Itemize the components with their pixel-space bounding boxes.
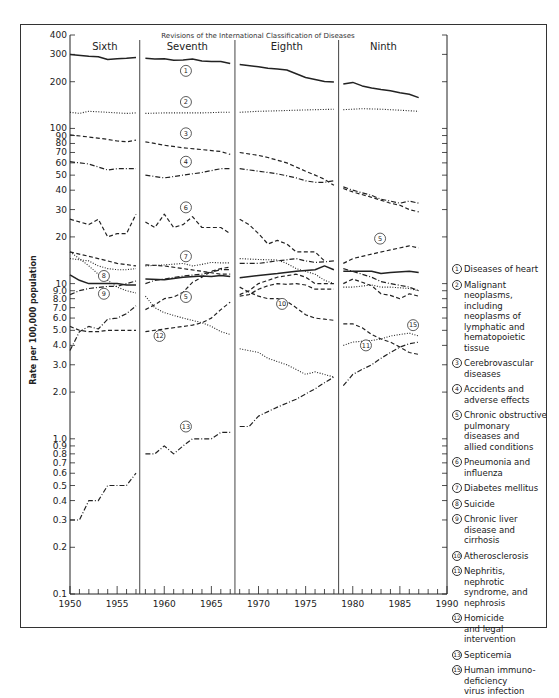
legend-label: Suicide bbox=[464, 499, 558, 510]
series-marker: 6 bbox=[180, 202, 191, 213]
series-3 bbox=[70, 135, 419, 212]
y-tick-label: 0.5 bbox=[53, 481, 67, 491]
series-marker: 11 bbox=[360, 340, 371, 351]
y-tick-label: 0.3 bbox=[53, 515, 67, 525]
y-tick-label: 70 bbox=[56, 147, 68, 157]
svg-text:7: 7 bbox=[184, 253, 188, 261]
y-tick-label: 0.4 bbox=[53, 496, 68, 506]
revision-label: Sixth bbox=[92, 41, 117, 52]
series-marker: 13 bbox=[180, 421, 191, 432]
x-tick-label: 1975 bbox=[294, 599, 317, 609]
legend-item: 1Diseases of heart bbox=[452, 264, 558, 275]
legend-item: 2Malignant neoplasms, including neoplasm… bbox=[452, 280, 558, 354]
series-lines bbox=[70, 54, 419, 520]
legend-item: 4Accidents and adverse effects bbox=[452, 384, 558, 405]
legend-item: 7Diabetes mellitus bbox=[452, 483, 558, 494]
series-marker: 1 bbox=[180, 65, 191, 76]
legend-label: Diabetes mellitus bbox=[464, 483, 558, 494]
y-tick-label: 0.2 bbox=[53, 542, 67, 552]
legend-item: 12Homicide and legal intervention bbox=[452, 613, 558, 645]
y-tick-label: 0.6 bbox=[53, 468, 68, 478]
svg-text:5: 5 bbox=[184, 293, 188, 301]
series-marker: 5 bbox=[180, 291, 191, 302]
legend-label: Chronic obstructive pulmonary diseases a… bbox=[464, 410, 558, 452]
series-marker: 9 bbox=[98, 288, 109, 299]
legend-item: 8Suicide bbox=[452, 499, 558, 510]
x-tick-label: 1985 bbox=[388, 599, 411, 609]
y-tick-label: 300 bbox=[50, 49, 67, 59]
series-marker: 5 bbox=[375, 233, 386, 244]
series-12 bbox=[70, 279, 419, 332]
y-tick-label: 4.0 bbox=[53, 340, 68, 350]
legend-number-badge: 11 bbox=[452, 566, 462, 576]
y-tick-label: 40 bbox=[56, 185, 68, 195]
revision-dividers: SixthSeventhEighthNinth bbox=[92, 40, 397, 594]
x-tick-label: 1970 bbox=[247, 599, 270, 609]
revision-label: Eighth bbox=[271, 41, 303, 52]
svg-text:11: 11 bbox=[362, 342, 370, 350]
legend-label: Septicemia bbox=[464, 650, 558, 661]
legend-label: Diseases of heart bbox=[464, 264, 558, 275]
y-tick-label: 0.7 bbox=[53, 458, 67, 468]
y-tick-label: 7.0 bbox=[53, 303, 68, 313]
svg-text:13: 13 bbox=[182, 423, 190, 431]
legend-number-badge: 13 bbox=[452, 650, 462, 660]
legend-label: Malignant neoplasms, including neoplasms… bbox=[464, 280, 558, 354]
svg-text:3: 3 bbox=[184, 130, 188, 138]
legend-number-badge: 6 bbox=[452, 457, 462, 467]
legend-item: 5Chronic obstructive pulmonary diseases … bbox=[452, 410, 558, 452]
chart-title: Revisions of the International Classific… bbox=[161, 32, 355, 40]
svg-text:12: 12 bbox=[155, 332, 163, 340]
revision-label: Ninth bbox=[370, 41, 397, 52]
y-tick-label: 60 bbox=[56, 158, 68, 168]
y-tick-label: 30 bbox=[56, 205, 68, 215]
y-axis-label: Rate per 100,000 population bbox=[29, 255, 38, 385]
series-2 bbox=[70, 109, 419, 114]
y-tick-label: 6.0 bbox=[53, 313, 68, 323]
legend-number-badge: 10 bbox=[452, 551, 462, 561]
legend-number-badge: 8 bbox=[452, 499, 462, 509]
legend-number-badge: 1 bbox=[452, 264, 462, 274]
legend-label: Atherosclerosis bbox=[464, 551, 558, 562]
legend-label: Chronic liver disease and cirrhosis bbox=[464, 514, 558, 546]
x-tick-label: 1965 bbox=[200, 599, 223, 609]
svg-text:6: 6 bbox=[184, 204, 188, 212]
series-15 bbox=[70, 306, 136, 351]
revision-label: Seventh bbox=[167, 41, 208, 52]
legend-item: 13Septicemia bbox=[452, 650, 558, 661]
y-tick-label: 5.0 bbox=[53, 325, 68, 335]
legend-number-badge: 12 bbox=[452, 613, 462, 623]
series-6 bbox=[70, 214, 325, 261]
x-tick-label: 1955 bbox=[106, 599, 129, 609]
svg-text:2: 2 bbox=[184, 98, 188, 106]
legend-label: Human immuno- deficiency virus infection bbox=[464, 665, 558, 697]
legend-number-badge: 5 bbox=[452, 410, 462, 420]
series-marker: 3 bbox=[180, 128, 191, 139]
y-tick-label: 0.1 bbox=[53, 589, 67, 599]
legend-label: Homicide and legal intervention bbox=[464, 613, 558, 645]
y-tick-label: 50 bbox=[56, 170, 68, 180]
legend-item: 11Nephritis, nephrotic syndrome, and nep… bbox=[452, 566, 558, 608]
legend-item: 6Pneumonia and influenza bbox=[452, 457, 558, 478]
series-marker: 10 bbox=[277, 298, 288, 309]
legend-item: 9Chronic liver disease and cirrhosis bbox=[452, 514, 558, 546]
legend-item: 15Human immuno- deficiency virus infecti… bbox=[452, 665, 558, 697]
svg-text:4: 4 bbox=[184, 158, 188, 166]
legend: 1Diseases of heart2Malignant neoplasms, … bbox=[452, 264, 558, 698]
x-tick-label: 1950 bbox=[59, 599, 82, 609]
legend-number-badge: 15 bbox=[452, 665, 462, 675]
series-markers: 12346789512101351511 bbox=[98, 65, 418, 432]
y-tick-label: 400 bbox=[50, 30, 67, 40]
legend-number-badge: 9 bbox=[452, 514, 462, 524]
series-marker: 4 bbox=[180, 156, 191, 167]
legend-number-badge: 2 bbox=[452, 280, 462, 290]
y-tick-label: 3.0 bbox=[53, 360, 68, 370]
legend-label: Nephritis, nephrotic syndrome, and nephr… bbox=[464, 566, 558, 608]
series-13 bbox=[70, 342, 419, 520]
series-marker: 2 bbox=[180, 97, 191, 108]
series-1 bbox=[70, 54, 419, 97]
legend-label: Accidents and adverse effects bbox=[464, 384, 558, 405]
legend-label: Pneumonia and influenza bbox=[464, 457, 558, 478]
series-10 bbox=[70, 252, 419, 355]
series-4 bbox=[70, 162, 419, 204]
